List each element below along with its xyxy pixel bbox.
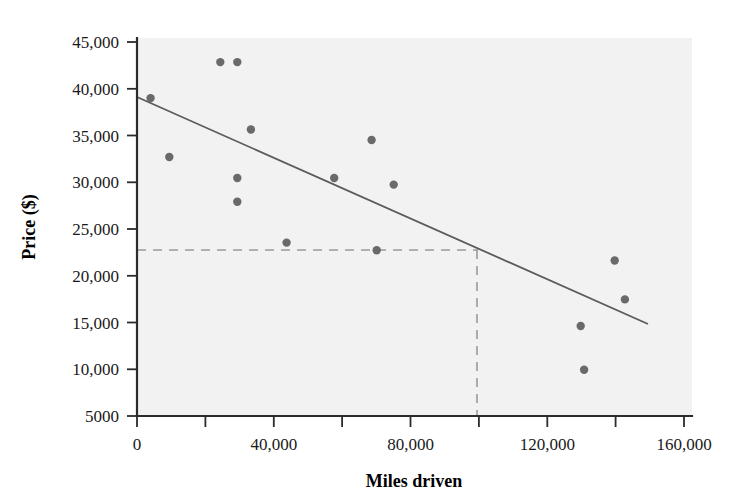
x-tick-label: 80,000 (387, 435, 434, 454)
data-point (611, 256, 619, 264)
x-tick-label: 160,000 (656, 435, 711, 454)
data-point (390, 180, 398, 188)
data-point (367, 136, 375, 144)
y-tick-label: 15,000 (72, 314, 119, 333)
x-tick-label: 40,000 (250, 435, 297, 454)
data-point (233, 198, 241, 206)
data-point (282, 238, 290, 246)
data-point (577, 322, 585, 330)
x-tick-label: 0 (133, 435, 142, 454)
y-tick-label: 40,000 (72, 80, 119, 99)
data-point (146, 94, 154, 102)
data-point (233, 174, 241, 182)
x-axis-ticks (137, 416, 684, 427)
data-point (621, 295, 629, 303)
data-point (580, 366, 588, 374)
data-point (247, 125, 255, 133)
x-tick-label: 120,000 (520, 435, 575, 454)
x-axis-tick-labels: 0 40,000 80,000 120,000 160,000 (133, 435, 712, 454)
y-tick-label: 45,000 (72, 33, 119, 52)
y-tick-label: 25,000 (72, 220, 119, 239)
data-point (165, 153, 173, 161)
chart-canvas: 45,000 40,000 35,000 30,000 25,000 20,00… (0, 0, 732, 501)
y-axis-title: Price ($) (19, 194, 40, 259)
y-axis-ticks (127, 42, 137, 416)
data-point (216, 58, 224, 66)
data-point (330, 174, 338, 182)
data-point (233, 58, 241, 66)
y-tick-label: 35,000 (72, 127, 119, 146)
y-tick-label: 30,000 (72, 173, 119, 192)
scatter-plot-figure: 45,000 40,000 35,000 30,000 25,000 20,00… (0, 0, 732, 501)
y-tick-label: 20,000 (72, 267, 119, 286)
data-point (373, 246, 381, 254)
y-tick-label: 5000 (85, 407, 119, 426)
x-axis-title: Miles driven (366, 471, 463, 491)
y-axis-tick-labels: 45,000 40,000 35,000 30,000 25,000 20,00… (72, 33, 119, 426)
y-tick-label: 10,000 (72, 360, 119, 379)
plot-area-background (137, 38, 692, 415)
